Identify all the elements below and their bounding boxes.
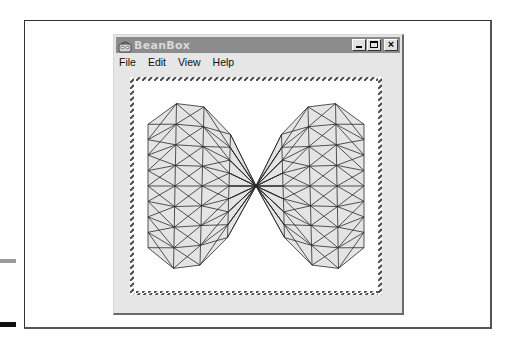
menu-bar: File Edit View Help [118,54,245,70]
window-title: BeanBox [134,39,190,52]
title-bar[interactable]: BeanBox × [116,37,400,53]
menu-view[interactable]: View [177,56,202,68]
maximize-button[interactable] [367,39,381,51]
menu-file[interactable]: File [118,56,137,68]
menu-edit[interactable]: Edit [147,56,167,68]
window-controls: × [352,39,398,51]
close-button[interactable]: × [384,39,398,51]
minimize-icon [356,46,362,48]
page-margin-marker-dark [0,322,16,327]
bean-canvas[interactable] [130,77,382,295]
page-margin-marker [0,259,16,263]
maximize-icon [370,41,378,48]
saddle-surface-wireframe [130,77,382,295]
menu-help[interactable]: Help [212,56,236,68]
minimize-button[interactable] [352,39,366,51]
beanbox-app-icon[interactable] [118,39,132,52]
beanbox-window: BeanBox × File Edit View Help [113,34,404,315]
close-icon: × [385,38,397,51]
